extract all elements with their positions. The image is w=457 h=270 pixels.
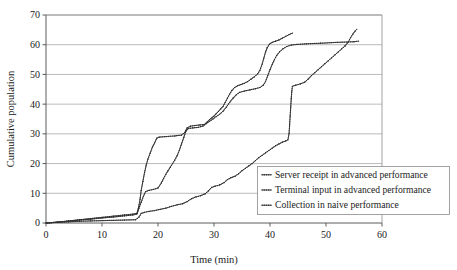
series-marker	[245, 82, 246, 83]
series-marker	[246, 167, 247, 168]
series-marker	[90, 218, 91, 219]
series-marker	[275, 41, 276, 42]
series-marker	[294, 44, 295, 45]
series-marker	[217, 112, 218, 113]
series-marker	[168, 136, 169, 137]
series-marker	[288, 137, 289, 138]
series-marker	[182, 203, 183, 204]
series-marker	[209, 189, 210, 190]
series-marker	[324, 63, 325, 64]
series-marker	[210, 188, 211, 189]
series-marker	[132, 213, 133, 214]
series-marker	[114, 215, 115, 216]
series-marker	[273, 61, 274, 62]
series-marker	[231, 90, 232, 91]
series-marker	[200, 195, 201, 196]
series-marker	[304, 82, 305, 83]
series-marker	[113, 216, 114, 217]
series-marker	[180, 147, 181, 148]
y-tick-label-30: 30	[30, 128, 40, 139]
series-marker	[319, 68, 320, 69]
series-marker	[295, 85, 296, 86]
series-marker	[232, 98, 233, 99]
legend-marker-dot	[266, 204, 268, 206]
series-marker	[356, 41, 357, 42]
series-marker	[255, 88, 256, 89]
series-marker	[289, 117, 290, 118]
series-marker	[208, 190, 209, 191]
series-marker	[191, 198, 192, 199]
series-marker	[156, 137, 157, 138]
series-marker	[230, 92, 231, 93]
series-marker	[64, 221, 65, 222]
series-marker	[194, 125, 195, 126]
series-marker	[290, 106, 291, 107]
series-marker	[285, 140, 286, 141]
series-marker	[298, 44, 299, 45]
series-marker	[358, 41, 359, 42]
series-marker	[221, 107, 222, 108]
series-marker	[120, 220, 121, 221]
series-marker	[308, 43, 309, 44]
series-marker	[230, 100, 231, 101]
series-marker	[167, 170, 168, 171]
series-marker	[194, 127, 195, 128]
series-marker	[287, 35, 288, 36]
series-marker	[265, 52, 266, 53]
series-marker	[285, 36, 286, 37]
series-marker	[227, 105, 228, 106]
series-marker	[146, 164, 147, 165]
series-marker	[155, 141, 156, 142]
series-marker	[143, 177, 144, 178]
series-marker	[222, 106, 223, 107]
series-marker	[268, 45, 269, 46]
series-marker	[320, 43, 321, 44]
legend-marker-dot	[264, 189, 266, 191]
series-marker	[223, 104, 224, 105]
series-marker	[140, 197, 141, 198]
series-marker	[140, 195, 141, 196]
series-marker	[278, 39, 279, 40]
series-marker	[138, 209, 139, 210]
series-marker	[187, 201, 188, 202]
series-marker	[346, 44, 347, 45]
series-marker	[199, 124, 200, 125]
chart-figure: 0102030405060700102030405060 Cumulative …	[0, 0, 457, 270]
series-marker	[176, 135, 177, 136]
series-marker	[260, 68, 261, 69]
series-marker	[113, 220, 114, 221]
series-marker	[150, 210, 151, 211]
series-marker	[45, 222, 46, 223]
series-marker	[302, 43, 303, 44]
series-marker	[348, 41, 349, 42]
series-marker	[306, 43, 307, 44]
series-marker	[265, 81, 266, 82]
y-tick-label-50: 50	[30, 69, 40, 80]
series-marker	[263, 59, 264, 60]
series-marker	[227, 179, 228, 180]
series-marker	[143, 179, 144, 180]
series-marker	[105, 220, 106, 221]
series-marker	[228, 103, 229, 104]
series-marker	[329, 59, 330, 60]
series-marker	[130, 214, 131, 215]
legend-marker-dot	[270, 174, 272, 176]
series-marker	[241, 91, 242, 92]
series-marker	[355, 30, 356, 31]
series-marker	[190, 128, 191, 129]
series-marker	[77, 219, 78, 220]
series-marker	[103, 217, 104, 218]
series-marker	[148, 211, 149, 212]
series-marker	[297, 84, 298, 85]
series-marker	[323, 65, 324, 66]
series-marker	[90, 220, 91, 221]
series-marker	[96, 220, 97, 221]
series-marker	[290, 103, 291, 104]
series-marker	[161, 208, 162, 209]
series-marker	[150, 153, 151, 154]
series-marker	[137, 218, 138, 219]
series-marker	[159, 186, 160, 187]
series-marker	[250, 79, 251, 80]
series-marker	[219, 109, 220, 110]
series-marker	[166, 172, 167, 173]
